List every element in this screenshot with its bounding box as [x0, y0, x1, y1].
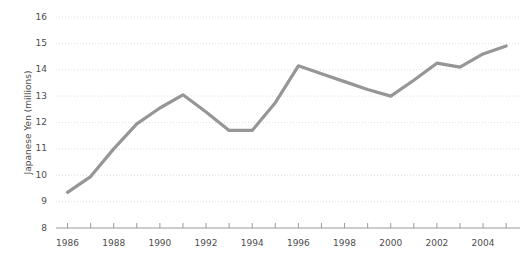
y-axis-tick-label: 13	[36, 91, 47, 101]
x-axis-tick-label: 1996	[287, 238, 310, 248]
x-axis-group	[56, 223, 520, 228]
x-axis-tick-labels: 1986198819901992199419961998200020022004	[56, 238, 495, 248]
x-axis-tick-label: 2000	[379, 238, 402, 248]
y-axis-tick-label: 15	[36, 38, 47, 48]
y-axis-tick-label: 11	[36, 143, 47, 153]
y-axis-tick-label: 10	[36, 170, 48, 180]
line-chart: 8910111213141516 19861988199019921994199…	[0, 0, 532, 261]
gridlines-group	[56, 17, 520, 202]
y-axis-tick-label: 9	[41, 196, 47, 206]
data-series-line	[68, 46, 507, 192]
y-axis-tick-label: 12	[36, 117, 47, 127]
x-axis-tick-label: 2002	[425, 238, 448, 248]
y-axis-tick-label: 14	[36, 64, 48, 74]
x-axis-tick-label: 1994	[241, 238, 264, 248]
x-axis-tick-label: 2004	[472, 238, 495, 248]
x-axis-tick-label: 1986	[56, 238, 79, 248]
x-axis-tick-label: 1998	[333, 238, 356, 248]
y-axis-tick-label: 8	[41, 223, 47, 233]
x-axis-tick-label: 1990	[148, 238, 171, 248]
y-axis-tick-labels: 8910111213141516	[36, 12, 48, 233]
x-axis-tick-label: 1992	[195, 238, 218, 248]
x-axis-tick-label: 1988	[102, 238, 125, 248]
y-axis-tick-label: 16	[36, 12, 48, 22]
y-axis-title: Japanese Yen (millions)	[23, 71, 33, 176]
chart-container: 8910111213141516 19861988199019921994199…	[0, 0, 532, 261]
